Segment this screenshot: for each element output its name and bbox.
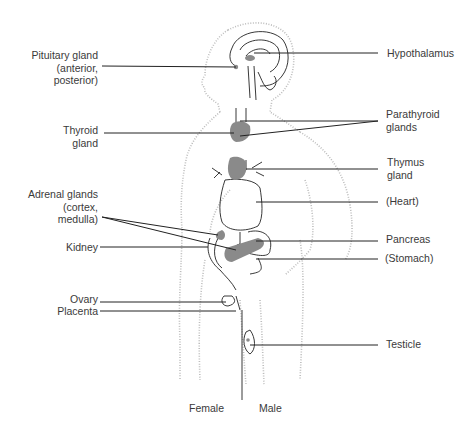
- label-placenta: Placenta: [57, 305, 98, 318]
- label-male: Male: [259, 402, 282, 415]
- label-hypothalamus: Hypothalamus: [387, 47, 454, 60]
- label-pituitary: Pituitary gland (anterior, posterior): [31, 49, 98, 87]
- label-thymus: Thymus gland: [387, 156, 424, 181]
- label-ovary: Ovary: [70, 293, 98, 306]
- label-parathyroid: Parathyroid glands: [386, 108, 440, 133]
- label-adrenal: Adrenal glands (cortex, medulla): [28, 188, 98, 226]
- label-heart: (Heart): [386, 195, 419, 208]
- label-kidney: Kidney: [66, 241, 98, 254]
- label-pancreas: Pancreas: [386, 233, 430, 246]
- label-thyroid: Thyroid gland: [63, 124, 98, 149]
- label-stomach: (Stomach): [385, 252, 433, 265]
- label-female: Female: [189, 402, 224, 415]
- label-testicle: Testicle: [386, 338, 421, 351]
